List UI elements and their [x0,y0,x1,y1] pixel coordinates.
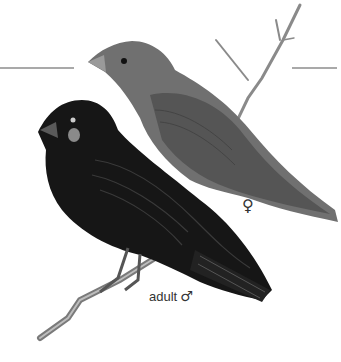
female-label: ♀ [242,196,254,215]
male-symbol: ♂ [180,288,193,304]
bird-illustration: ♀ adult♂ [0,0,341,362]
adult-male-label: adult♂ [149,288,193,304]
adult-label-text: adult [149,289,177,304]
